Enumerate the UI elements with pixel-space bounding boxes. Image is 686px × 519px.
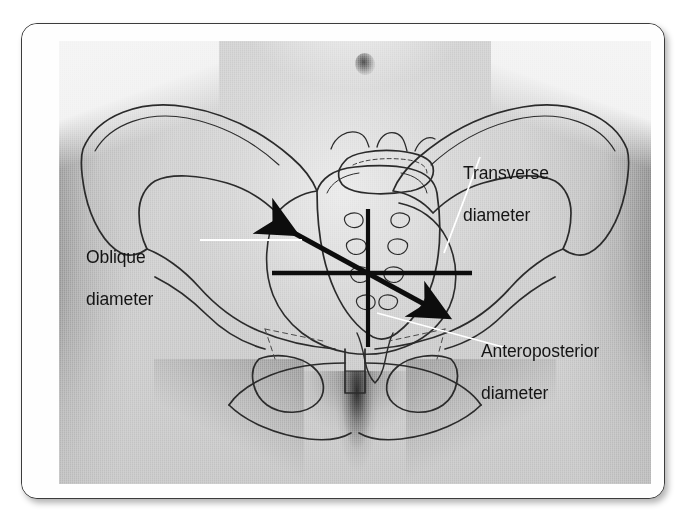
sacral-foramen-r2: [388, 239, 408, 255]
left-pubic-arch: [229, 405, 351, 440]
sacral-foramen-r1: [391, 213, 410, 228]
label-anteroposterior-line1: Anteroposterior: [481, 341, 599, 362]
label-oblique-diameter: Oblique diameter: [86, 226, 153, 331]
label-anteroposterior-line2: diameter: [481, 383, 599, 404]
left-superior-ramus: [147, 249, 335, 349]
sacral-foramen-r4: [379, 295, 398, 310]
sacral-foramen-l4: [356, 295, 375, 310]
label-anteroposterior-diameter: Anteroposterior diameter: [481, 320, 599, 425]
label-oblique-line2: diameter: [86, 289, 153, 310]
label-oblique-line1: Oblique: [86, 247, 153, 268]
label-transverse-line2: diameter: [463, 205, 549, 226]
lumbar-spinous-processes: [331, 132, 435, 151]
sacral-foramen-l2: [346, 239, 366, 255]
right-pubic-arch: [359, 405, 481, 440]
left-inferior-ramus: [155, 277, 265, 349]
left-ischial-line: [229, 363, 345, 405]
coccyx-outline: [357, 333, 393, 383]
left-iliac-crest-inner-line: [95, 116, 279, 165]
label-transverse-line1: Transverse: [463, 163, 549, 184]
figure-root: Transverse diameter Oblique diameter Ant…: [0, 0, 686, 519]
sacral-foramen-l1: [344, 213, 363, 228]
label-transverse-diameter: Transverse diameter: [463, 142, 549, 247]
